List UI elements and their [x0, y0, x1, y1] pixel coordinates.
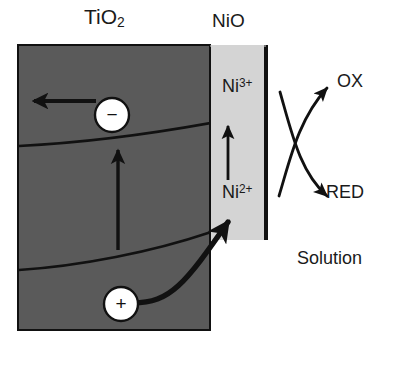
hole-sign: + — [110, 294, 132, 313]
ni3plus-label: Ni3+ — [222, 77, 253, 95]
nio-label: NiO — [212, 11, 245, 30]
nio-layer-rect — [210, 45, 266, 240]
oxidant-label: OX — [337, 72, 363, 90]
ni2plus-label: Ni2+ — [222, 183, 253, 201]
diagram-canvas: TiO2 NiO Ni3+ Ni2+ OX RED Solution − + — [0, 0, 395, 368]
tio2-label: TiO2 — [84, 6, 125, 27]
electron-sign: − — [101, 105, 123, 124]
oxidation-curved-arrow — [279, 88, 327, 196]
reduction-curved-arrow — [280, 92, 327, 196]
reductant-label: RED — [326, 183, 364, 201]
solution-label: Solution — [297, 249, 362, 267]
